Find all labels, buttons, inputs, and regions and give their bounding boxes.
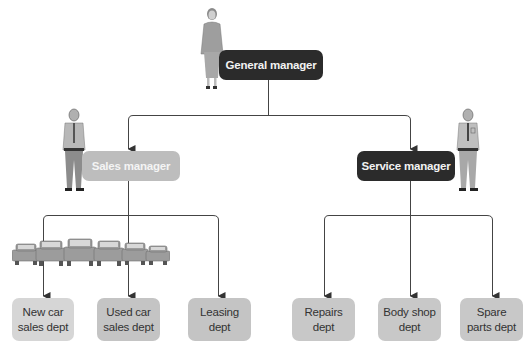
sales-manager-label: Sales manager xyxy=(92,160,171,172)
dept-label-line1: Body shop xyxy=(383,305,436,320)
dept-label-line2: dept xyxy=(200,320,239,335)
dept-label-line1: Leasing xyxy=(200,305,239,320)
used-car-sales-dept-box[interactable]: Used car sales dept xyxy=(97,298,160,341)
dept-label-line2: dept xyxy=(383,320,436,335)
org-chart: General manager Sales manager Service ma… xyxy=(0,0,532,350)
sales-manager-box[interactable]: Sales manager xyxy=(82,151,180,181)
dept-label-line2: parts dept xyxy=(467,320,516,335)
dept-label-line2: dept xyxy=(304,320,342,335)
body-shop-dept-box[interactable]: Body shop dept xyxy=(378,298,441,341)
new-car-sales-dept-box[interactable]: New car sales dept xyxy=(12,298,74,341)
dept-label-line2: sales dept xyxy=(18,320,68,335)
repairs-dept-box[interactable]: Repairs dept xyxy=(292,298,355,341)
general-manager-box[interactable]: General manager xyxy=(219,50,323,80)
spare-parts-dept-box[interactable]: Spare parts dept xyxy=(460,298,523,341)
dept-label-line1: Repairs xyxy=(304,305,342,320)
general-manager-label: General manager xyxy=(226,59,317,71)
dept-label-line1: New car xyxy=(18,305,68,320)
dept-label-line1: Used car xyxy=(103,305,153,320)
row-of-cars-icon xyxy=(12,238,170,268)
dept-label-line2: sales dept xyxy=(103,320,153,335)
mechanic-figure-icon xyxy=(451,108,485,194)
service-manager-label: Service manager xyxy=(361,160,450,172)
service-manager-box[interactable]: Service manager xyxy=(357,151,455,181)
leasing-dept-box[interactable]: Leasing dept xyxy=(188,298,251,341)
dept-label-line1: Spare xyxy=(467,305,516,320)
